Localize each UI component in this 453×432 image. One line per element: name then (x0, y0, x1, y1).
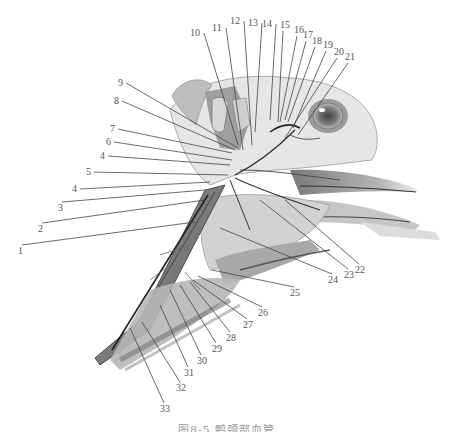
leader-line (62, 190, 205, 202)
callout-number: 27 (243, 319, 253, 330)
callout-number: 19 (323, 39, 333, 50)
figure-caption: 图8-5 鸭颈部血管 (0, 421, 453, 432)
eye-sketch (308, 99, 348, 133)
callout-number: 28 (226, 332, 236, 343)
callout-number: 22 (355, 264, 365, 275)
leader-line (42, 200, 205, 223)
anatomical-figure: 1234546789101112131415161718192021222324… (0, 0, 453, 432)
callout-number: 10 (190, 27, 200, 38)
callout-number: 4 (72, 183, 77, 194)
leader-line (80, 182, 210, 189)
callout-number: 6 (106, 136, 111, 147)
callout-number: 21 (345, 51, 355, 62)
callout-number: 18 (312, 35, 322, 46)
callout-number: 29 (212, 343, 222, 354)
callout-number: 5 (86, 166, 91, 177)
callout-number: 3 (58, 202, 63, 213)
callout-number: 30 (197, 355, 207, 366)
callout-3: 3 (58, 190, 205, 213)
callout-number: 32 (176, 382, 186, 393)
callout-number: 26 (258, 307, 268, 318)
callout-number: 11 (212, 22, 222, 33)
callout-number: 24 (328, 274, 338, 285)
callout-number: 1 (18, 245, 23, 256)
callout-number: 20 (334, 46, 344, 57)
callout-2: 2 (38, 200, 205, 234)
callout-number: 23 (344, 269, 354, 280)
callout-number: 2 (38, 223, 43, 234)
callout-number: 15 (280, 19, 290, 30)
callout-1: 1 (18, 222, 195, 256)
callout-number: 8 (114, 95, 119, 106)
callout-number: 13 (248, 17, 258, 28)
head-sketch (170, 76, 377, 185)
callout-number: 7 (110, 123, 115, 134)
callout-number: 33 (160, 403, 170, 414)
callout-number: 14 (262, 18, 272, 29)
callout-number: 31 (184, 367, 194, 378)
callout-number: 9 (118, 77, 123, 88)
callout-4: 4 (72, 182, 210, 194)
leader-line (22, 222, 195, 245)
callout-number: 25 (290, 287, 300, 298)
callout-number: 4 (100, 150, 105, 161)
callout-number: 12 (230, 15, 240, 26)
